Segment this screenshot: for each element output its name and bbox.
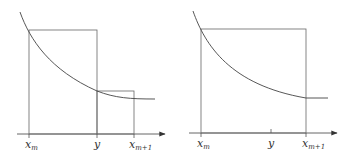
decreasing-curve (20, 12, 155, 99)
right-panel: xm y xm+1 (189, 11, 337, 151)
small-rectangle (97, 91, 134, 134)
label-xm: xm (25, 138, 38, 152)
left-panel: xm y xm+1 (17, 12, 165, 152)
label-xm1: xm+1 (302, 137, 325, 151)
label-y: y (267, 137, 275, 150)
upper-rectangle (201, 29, 306, 133)
label-y: y (93, 138, 101, 151)
diagram-canvas: xm y xm+1 xm y xm+1 (0, 0, 350, 160)
label-xm: xm (197, 137, 210, 151)
label-xm1: xm+1 (129, 138, 152, 152)
upper-rectangle (29, 30, 97, 134)
decreasing-curve (193, 11, 328, 98)
